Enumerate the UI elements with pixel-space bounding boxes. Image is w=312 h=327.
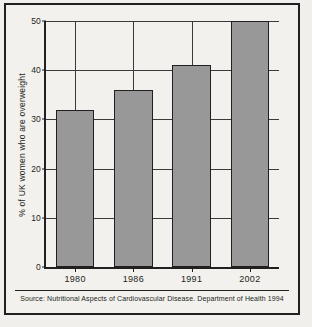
bar-1986	[114, 90, 152, 267]
y-tick-mark	[42, 267, 46, 268]
y-tick-label: 40	[31, 65, 41, 75]
chart-figure: % of UK women who are overweight 0102030…	[4, 3, 300, 315]
x-tick-mark	[192, 267, 193, 272]
bar-1980	[56, 110, 94, 267]
plot-area: 010203040501980198619912002	[44, 21, 279, 269]
source-divider	[15, 290, 289, 291]
y-tick-mark	[42, 168, 46, 169]
x-tick-label: 2002	[239, 274, 260, 284]
y-tick-label: 30	[31, 114, 41, 124]
y-tick-label: 0	[36, 262, 41, 272]
x-tick-label: 1986	[123, 274, 144, 284]
x-tick-mark	[133, 267, 134, 272]
y-tick-label: 10	[31, 213, 41, 223]
y-axis-title-text: % of UK women who are overweight	[17, 73, 27, 216]
x-tick-label: 1980	[65, 274, 86, 284]
x-tick-mark	[75, 267, 76, 272]
bar-1991	[172, 65, 210, 267]
y-tick-mark	[42, 119, 46, 120]
y-tick-label: 50	[31, 16, 41, 26]
bar-2002	[231, 21, 269, 267]
y-axis-title: % of UK women who are overweight	[15, 21, 29, 269]
y-tick-label: 20	[31, 164, 41, 174]
x-tick-mark	[250, 267, 251, 272]
source-note: Source: Nutritional Aspects of Cardiovas…	[6, 295, 298, 302]
x-tick-label: 1991	[181, 274, 202, 284]
y-tick-mark	[42, 70, 46, 71]
y-tick-mark	[42, 21, 46, 22]
y-tick-mark	[42, 217, 46, 218]
